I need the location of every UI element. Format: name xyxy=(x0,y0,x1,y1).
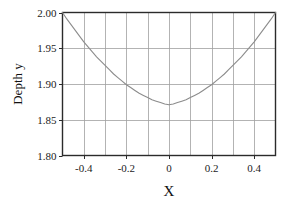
x-tick-label: 0.4 xyxy=(247,162,261,174)
y-axis-title: Depth y xyxy=(10,63,25,105)
x-tick-label: 0.2 xyxy=(205,162,219,174)
y-tick-label: 2.00 xyxy=(37,7,57,19)
y-tick-label: 1.80 xyxy=(37,150,57,162)
chart-figure: -0.4-0.200.20.4 1.801.851.901.952.00 X D… xyxy=(0,0,296,204)
y-tick-label: 1.90 xyxy=(37,78,57,90)
chart-svg: -0.4-0.200.20.4 1.801.851.901.952.00 X D… xyxy=(0,0,296,204)
x-tick-label: -0.2 xyxy=(118,162,135,174)
y-tick-label: 1.85 xyxy=(37,114,57,126)
x-tick-label: 0 xyxy=(166,162,172,174)
y-tick-label: 1.95 xyxy=(37,42,57,54)
x-axis-title: X xyxy=(164,183,175,199)
x-tick-label: -0.4 xyxy=(75,162,93,174)
